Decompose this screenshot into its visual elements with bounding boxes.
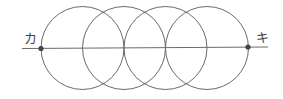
point-ka [38,46,43,51]
straight-line [22,47,268,49]
label-ki: キ [256,31,269,44]
circles-diagram [0,0,283,99]
label-ka: カ [24,32,37,45]
point-ki [245,44,250,49]
